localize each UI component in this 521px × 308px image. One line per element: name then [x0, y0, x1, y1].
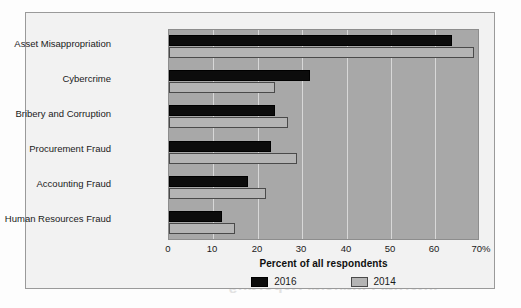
bar-2014-human-resources-fraud	[169, 223, 235, 234]
chart-legend: 2016 2014	[168, 277, 479, 287]
xtick-0: 0	[165, 244, 170, 254]
legend-item-2016: 2016	[251, 277, 296, 287]
category-label-procurement-fraud: Procurement Fraud	[29, 144, 111, 154]
legend-label-2016: 2016	[274, 277, 296, 287]
bar-group-procurement-fraud	[169, 136, 478, 171]
bar-group-bribery-and-corruption	[169, 100, 478, 135]
category-label-human-resources-fraud: Human Resources Fraud	[5, 214, 111, 224]
legend-item-2014: 2014	[351, 277, 396, 287]
x-axis-title: Percent of all respondents	[168, 258, 479, 269]
xtick-70: 70%	[471, 244, 490, 254]
bar-2016-cybercrime	[169, 70, 310, 81]
legend-label-2014: 2014	[374, 277, 396, 287]
bar-group-cybercrime	[169, 65, 478, 100]
category-label-cybercrime: Cybercrime	[62, 74, 111, 84]
bar-group-accounting-fraud	[169, 171, 478, 206]
bar-2014-procurement-fraud	[169, 153, 297, 164]
category-label-accounting-fraud: Accounting Fraud	[37, 179, 111, 189]
plot-area	[168, 29, 479, 240]
bar-2016-asset-misappropriation	[169, 35, 452, 46]
xtick-50: 50	[385, 244, 396, 254]
legend-swatch-2016-icon	[251, 277, 268, 287]
bar-2014-cybercrime	[169, 82, 275, 93]
bar-group-asset-misappropriation	[169, 30, 478, 65]
bar-2016-accounting-fraud	[169, 176, 248, 187]
bar-2016-bribery-and-corruption	[169, 105, 275, 116]
category-label-asset-misappropriation: Asset Misappropriation	[14, 39, 111, 49]
xtick-30: 30	[296, 244, 307, 254]
bar-2014-asset-misappropriation	[169, 47, 474, 58]
bar-2014-accounting-fraud	[169, 188, 266, 199]
category-label-bribery-and-corruption: Bribery and Corruption	[15, 109, 111, 119]
chart-frame: Asset Misappropriation Cybercrime Briber…	[25, 12, 495, 289]
bar-group-human-resources-fraud	[169, 206, 478, 241]
xtick-40: 40	[341, 244, 352, 254]
chart-figure: Internal Financial Reporting Asset Misap…	[0, 0, 521, 308]
legend-swatch-2014-icon	[351, 277, 368, 287]
xtick-20: 20	[252, 244, 263, 254]
bar-2016-procurement-fraud	[169, 141, 271, 152]
bar-2014-bribery-and-corruption	[169, 117, 288, 128]
bar-2016-human-resources-fraud	[169, 211, 222, 222]
xtick-10: 10	[207, 244, 218, 254]
xtick-60: 60	[429, 244, 440, 254]
